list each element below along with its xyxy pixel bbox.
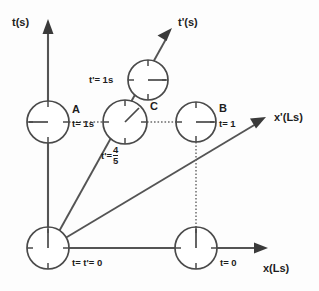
clock-c-value-fraction: 45 xyxy=(113,145,118,165)
clock-x-axis-value-label: t= 0 xyxy=(220,258,237,268)
t-axis-label: t(s) xyxy=(12,17,29,29)
t-prime-axis-label: t'(s) xyxy=(178,17,198,29)
x-axis-label: x(Ls) xyxy=(263,263,289,275)
clock-a xyxy=(27,101,69,143)
clock-c xyxy=(103,100,147,144)
clock-c-value-label: t'=45 xyxy=(101,146,118,166)
clock-origin xyxy=(27,227,69,269)
clock-origin-value-label: t= t'= 0 xyxy=(72,258,102,268)
fraction-denominator: 5 xyxy=(113,155,118,166)
spacetime-diagram-figure: t(s) t'(s) x'(Ls) x(Ls) A t= 1s C t'=45 … xyxy=(0,0,319,291)
clock-x-axis-t0 xyxy=(175,227,217,269)
clock-b-name-label: B xyxy=(219,103,227,115)
x-prime-axis xyxy=(52,117,266,246)
x-prime-axis-label: x'(Ls) xyxy=(274,112,303,124)
clock-b xyxy=(176,102,216,142)
clock-a-value-label: t= 1s xyxy=(72,119,94,129)
x-axis xyxy=(44,243,268,254)
clock-t-prime-1s-value-label: t'= 1s xyxy=(89,75,113,85)
fraction-numerator: 4 xyxy=(113,145,118,155)
clock-t-prime-1s xyxy=(128,60,168,100)
clock-c-value-prefix: t'= xyxy=(101,150,112,161)
clock-b-value-label: t= 1 xyxy=(219,119,236,129)
clock-a-name-label: A xyxy=(72,104,80,116)
clock-c-name-label: C xyxy=(150,101,158,113)
diagram-svg xyxy=(0,0,319,291)
